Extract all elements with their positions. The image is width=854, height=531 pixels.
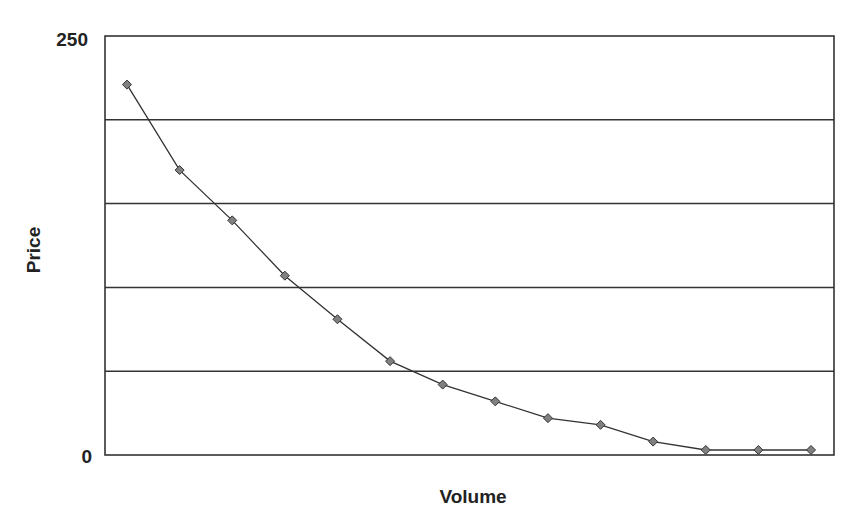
data-point-marker — [491, 397, 500, 406]
price-line — [127, 85, 811, 450]
data-point-marker — [438, 380, 447, 389]
data-point-marker — [543, 414, 552, 423]
data-point-marker — [596, 420, 605, 429]
y-tick-max: 250 — [56, 29, 88, 50]
y-tick-min: 0 — [81, 446, 92, 467]
data-point-marker — [649, 437, 658, 446]
x-axis-title: Volume — [439, 486, 506, 507]
data-point-marker — [754, 445, 763, 454]
data-point-marker — [807, 445, 816, 454]
price-volume-chart: 250 0 Volume Price — [0, 0, 854, 531]
data-point-marker — [701, 445, 710, 454]
gridlines — [105, 120, 834, 371]
y-axis-title: Price — [23, 227, 44, 273]
plot-area — [105, 36, 834, 455]
data-point-marker — [123, 80, 132, 89]
data-markers — [123, 80, 816, 454]
